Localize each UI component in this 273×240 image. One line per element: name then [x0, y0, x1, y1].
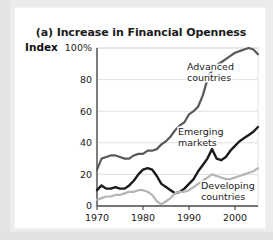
svg-text:1970: 1970 — [85, 212, 109, 223]
frame-edge-left — [0, 0, 10, 240]
svg-text:1990: 1990 — [177, 212, 201, 223]
svg-text:100%: 100% — [65, 42, 92, 53]
developing-countries-label-line1: Developing — [201, 180, 255, 191]
svg-text:0: 0 — [86, 200, 92, 211]
svg-text:1980: 1980 — [131, 212, 155, 223]
y-tick-labels: 020406080100% — [65, 42, 92, 211]
developing-countries-label-line2: countries — [201, 191, 245, 202]
svg-text:2000: 2000 — [223, 212, 247, 223]
svg-text:80: 80 — [80, 74, 92, 85]
series-annotations: AdvancedAdvancedcountriescountriesEmergi… — [178, 61, 255, 202]
plot-area: 020406080100% 1970198019902000 AdvancedA… — [15, 8, 267, 230]
figure-root: (a) Increase in Financial Openness Index… — [0, 0, 273, 240]
line-chart-svg: 020406080100% 1970198019902000 AdvancedA… — [15, 8, 267, 230]
svg-text:60: 60 — [80, 106, 92, 117]
emerging-markets-label-line1: Emerging — [178, 126, 224, 137]
svg-text:40: 40 — [80, 137, 92, 148]
frame-edge-bottom — [0, 232, 273, 240]
advanced-countries-label-line1: Advanced — [187, 61, 234, 72]
advanced-countries-label-line2: countries — [187, 72, 231, 83]
x-tick-labels: 1970198019902000 — [85, 206, 247, 223]
svg-text:20: 20 — [80, 169, 92, 180]
emerging-markets-label-line2: markets — [178, 137, 217, 148]
chart-card: (a) Increase in Financial Openness Index… — [14, 7, 266, 229]
